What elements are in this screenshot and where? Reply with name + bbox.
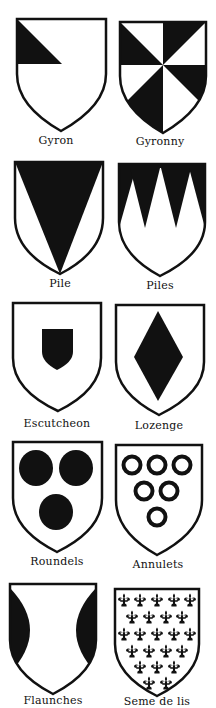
shield-pile (15, 162, 103, 274)
label-annulets: Annulets (133, 559, 184, 571)
label-seme-de-lis: Seme de lis (124, 696, 190, 708)
shield-seme-de-lis (115, 589, 199, 696)
shield-piles (115, 160, 210, 280)
label-escutcheon: Escutcheon (24, 418, 91, 430)
label-lozenge: Lozenge (135, 420, 183, 432)
shield-annulets (116, 445, 202, 555)
shield-gyron (17, 19, 106, 131)
label-gyronny: Gyronny (136, 136, 185, 148)
label-gyron: Gyron (39, 135, 74, 147)
label-pile: Pile (49, 278, 71, 290)
shield-escutcheon (13, 303, 101, 411)
shield-roundels (13, 442, 102, 552)
label-piles: Piles (146, 280, 174, 292)
shield-gyronny (115, 18, 210, 140)
shield-flaunches (5, 580, 100, 700)
label-roundels: Roundels (30, 556, 83, 568)
label-flaunches: Flaunches (23, 695, 82, 707)
shield-lozenge (116, 305, 204, 415)
shields-canvas (0, 0, 216, 708)
heraldry-plate: Gyron Gyronny Pile Piles Escutcheon Loze… (0, 0, 216, 708)
